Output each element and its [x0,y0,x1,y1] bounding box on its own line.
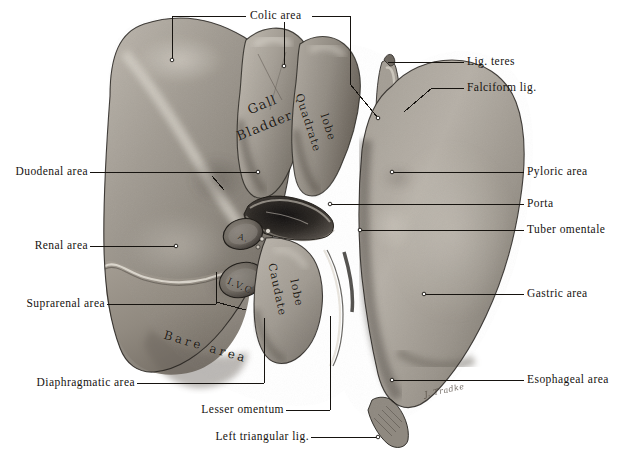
label-lesser-omentum: Lesser omentum [180,404,284,416]
dot-gastric [422,292,426,296]
label-pyloric-area: Pyloric area [527,166,588,178]
label-esophageal-area: Esophageal area [527,374,609,386]
dot-colic-1 [170,58,174,62]
dot-renal [174,244,178,248]
label-suprarenal-area: Suprarenal area [0,298,105,310]
dot-esophageal [390,378,394,382]
label-gastric-area: Gastric area [527,288,588,300]
label-diaphragmatic-area: Diaphragmatic area [0,377,135,389]
label-falciform-lig: Falciform lig. [467,82,537,94]
dot-pyloric [390,170,394,174]
label-lig-teres: Lig. teres [467,56,515,68]
label-tuber-omentale: Tuber omentale [527,224,605,236]
dot-duodenal [256,170,260,174]
label-renal-area: Renal area [0,240,88,252]
dot-porta [328,202,332,206]
label-colic-area: Colic area [250,10,301,22]
label-left-triangular-lig: Left triangular lig. [190,431,309,443]
dot-colic-3 [376,116,380,120]
dot-left-triangular [376,435,380,439]
dot-colic-2 [282,64,286,68]
label-duodenal-area: Duodenal area [0,166,88,178]
dot-tuber [358,228,362,232]
label-porta: Porta [527,198,554,210]
figure-page: Gall Bladder Quadrate lobe Caudate lobe … [0,0,631,458]
